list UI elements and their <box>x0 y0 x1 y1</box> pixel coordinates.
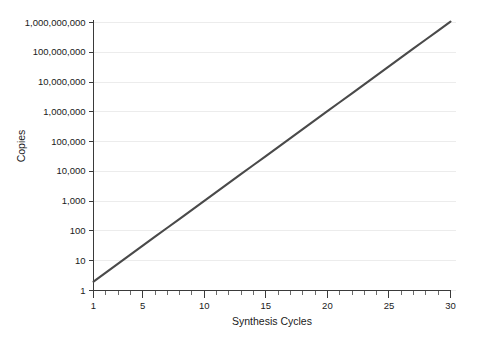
y-tick-label-8: 100,000,000 <box>33 46 86 57</box>
x-axis-title: Synthesis Cycles <box>232 315 312 327</box>
y-tick-label-3: 1,000 <box>62 195 86 206</box>
x-tick-label-2: 10 <box>199 300 210 311</box>
y-tick-label-2: 100 <box>70 225 86 236</box>
chart-container: 1101001,00010,000100,0001,000,00010,000,… <box>0 0 477 342</box>
y-tick-label-0: 1 <box>80 285 85 296</box>
y-tick-label-4: 10,000 <box>56 165 85 176</box>
x-tick-label-6: 30 <box>445 300 456 311</box>
y-tick-label-1: 10 <box>75 255 86 266</box>
gridlines <box>94 23 457 291</box>
x-tick-label-3: 15 <box>261 300 272 311</box>
x-tick-label-1: 5 <box>140 300 145 311</box>
y-tick-label-6: 1,000,000 <box>43 106 85 117</box>
x-tick-label-5: 25 <box>384 300 395 311</box>
y-axis-title: Copies <box>15 130 27 163</box>
y-axis-ticks <box>89 23 94 291</box>
semilog-line-chart: 1101001,00010,000100,0001,000,00010,000,… <box>0 0 477 342</box>
x-axis-ticks <box>94 291 451 298</box>
y-tick-label-7: 10,000,000 <box>38 76 86 87</box>
x-tick-label-4: 20 <box>322 300 333 311</box>
y-tick-label-5: 100,000 <box>51 136 85 147</box>
y-tick-label-9: 1,000,000,000 <box>25 17 86 28</box>
y-axis-tick-labels: 1101001,00010,000100,0001,000,00010,000,… <box>25 17 86 296</box>
x-tick-label-0: 1 <box>91 300 96 311</box>
x-axis-tick-labels: 151015202530 <box>91 300 456 311</box>
data-series-line <box>94 22 451 282</box>
